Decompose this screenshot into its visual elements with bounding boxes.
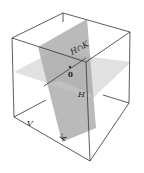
label-plane-h: H [77,90,86,99]
origin-point [69,66,71,68]
label-space-v: V [27,119,34,128]
subspace-diagram: H∩K 0 H K V [0,0,144,173]
plane-k [38,19,96,142]
label-origin: 0 [68,70,73,79]
